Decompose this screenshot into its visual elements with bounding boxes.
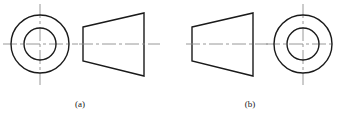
caption-b: (b): [235, 99, 265, 109]
engineering-drawing-figure: [0, 0, 338, 127]
caption-a: (a): [65, 99, 95, 109]
